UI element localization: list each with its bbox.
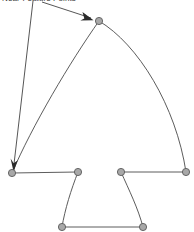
inner-left-top-node[interactable]: [74, 168, 81, 175]
bottom-left-node[interactable]: [58, 223, 65, 230]
left-inner-arc: [62, 172, 78, 227]
arrowhead-to-apex-icon: [80, 12, 93, 20]
figure-canvas: Near-Feature Points: [0, 0, 194, 232]
left-outer-arc: [12, 21, 99, 173]
bottom-right-node[interactable]: [139, 223, 146, 230]
leader-line-group: [14, 1, 91, 164]
leader-line-to-left-base: [14, 1, 33, 164]
right-outer-arc: [99, 21, 186, 172]
left-shelf-edge: [12, 172, 78, 173]
edge-group: [12, 21, 186, 227]
shape-diagram: [0, 0, 194, 232]
annotation-label: Near-Feature Points: [2, 0, 76, 3]
right-inner-arc: [121, 172, 143, 227]
apex-node[interactable]: [95, 17, 102, 24]
left-base-node[interactable]: [8, 169, 15, 176]
inner-right-top-node[interactable]: [117, 168, 124, 175]
right-base-node[interactable]: [182, 168, 189, 175]
